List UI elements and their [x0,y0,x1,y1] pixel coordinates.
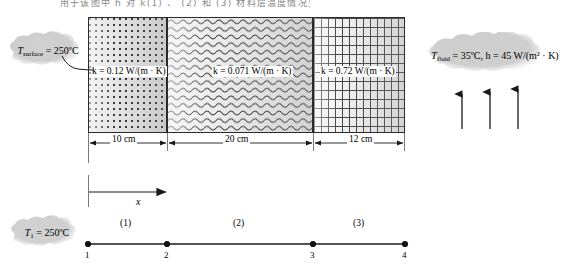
convection-arrows-group [440,85,550,130]
callout-fluid-conditions: Tfluid = 35ºC, h = 45 W/(m² · K) [420,32,570,80]
node-number-2: 2 [164,250,169,260]
header-caption-text: 用于该图中 h 对 k(1) 、 (2) 和 (3) 材料层温度情况变化 各区域… [60,0,310,7]
node-number-3: 3 [310,250,315,260]
segment-label-1: (1) [120,218,131,228]
network-node-2 [164,241,170,247]
dimension-lines [0,133,572,167]
segment-label-3: (3) [353,218,364,228]
callout-fluid-text: Tfluid = 35ºC, h = 45 W/(m² · K) [420,32,570,80]
network-node-4 [402,241,408,247]
dimension-band: 10 cm 20 cm 12 cm [0,133,572,167]
leader-line-surface [60,50,96,80]
network-node-1 [85,241,91,247]
x-axis-label: x [136,196,140,207]
subscript-fluid: fluid [437,55,450,63]
dimension-label-1: 10 cm [110,134,137,144]
layer-3-k-label: k = 0.72 W/(m · K) [320,66,396,77]
x-axis-arrow [0,175,572,215]
dimension-label-3: 12 cm [347,134,374,144]
dimension-label-2: 20 cm [223,134,250,144]
layer-1-k-label: k = 0.12 W/(m · K) [91,66,167,77]
figure-canvas: 用于该图中 h 对 k(1) 、 (2) 和 (3) 材料层温度情况变化 各区域… [0,0,572,267]
node-number-1: 1 [85,250,90,260]
subscript-surface: surface [23,50,43,58]
network-node-3 [310,241,316,247]
layer-2-k-label: k = 0.071 W/(m · K) [212,66,293,77]
fluid-value: = 35ºC, h = 45 W/(m² · K) [450,50,559,61]
resistance-network: (1) (2) (3) 1 2 3 4 [0,218,572,267]
x-axis-group: x [0,175,572,215]
node-number-4: 4 [402,250,407,260]
segment-label-2: (2) [233,218,244,228]
